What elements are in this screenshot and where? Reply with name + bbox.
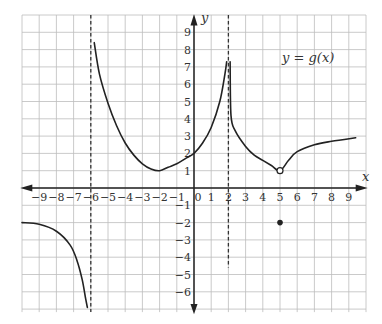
x-tick-label: 3 <box>242 191 249 204</box>
x-tick-label: −6 <box>83 191 99 204</box>
x-tick-label: 5 <box>277 191 284 204</box>
y-tick-label: −4 <box>175 251 191 264</box>
y-tick-label: −3 <box>175 234 191 247</box>
y-tick-label: 5 <box>184 96 191 109</box>
x-tick-label: 7 <box>311 191 318 204</box>
x-tick-label: −7 <box>65 191 81 204</box>
branch-left-curve <box>22 223 87 308</box>
y-tick-label: 3 <box>184 130 191 143</box>
x-tick-label: 0 <box>195 191 202 204</box>
x-tick-label: 9 <box>345 191 352 204</box>
x-tick-label: 8 <box>328 191 335 204</box>
x-tick-label: 1 <box>208 191 215 204</box>
branch-middle-curve <box>94 43 226 171</box>
x-tick-label: −5 <box>100 191 116 204</box>
x-tick-label: −4 <box>117 191 133 204</box>
y-tick-label: 8 <box>184 44 191 57</box>
x-tick-label: 6 <box>294 191 301 204</box>
x-tick-label: −8 <box>48 191 64 204</box>
y-tick-label: 6 <box>184 78 191 91</box>
y-tick-label: −1 <box>175 199 191 212</box>
function-label: y = g(x) <box>281 50 334 65</box>
x-tick-label: −2 <box>151 191 167 204</box>
x-tick-label: −9 <box>31 191 47 204</box>
y-tick-label: 9 <box>184 26 191 39</box>
y-axis-label: y <box>200 10 209 25</box>
branch-right-curve <box>230 62 356 171</box>
y-tick-label: −2 <box>175 217 191 230</box>
graph-canvas: −9−8−7−6−5−4−3−2−10123456789987654321−1−… <box>0 0 382 324</box>
y-tick-label: 1 <box>184 165 191 178</box>
x-axis-label: x <box>362 169 370 184</box>
y-tick-label: 4 <box>184 113 191 126</box>
y-tick-label: −6 <box>175 286 191 299</box>
closed-point-icon <box>277 220 283 226</box>
y-tick-label: 7 <box>184 61 191 74</box>
open-point-icon <box>277 168 283 174</box>
y-arrow-up-icon <box>191 14 198 25</box>
x-tick-label: −3 <box>134 191 150 204</box>
y-tick-label: −5 <box>175 269 191 282</box>
x-tick-label: 4 <box>259 191 266 204</box>
x-tick-label: 2 <box>225 191 232 204</box>
